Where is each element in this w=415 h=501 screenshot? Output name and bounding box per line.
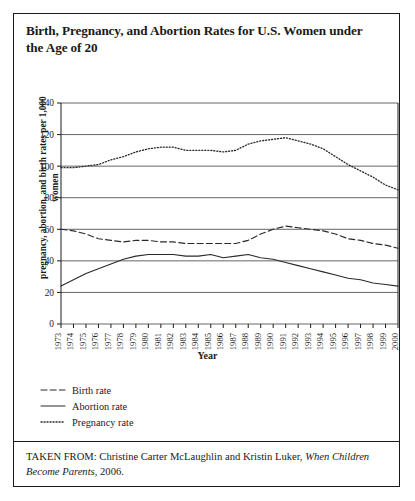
source-suffix: , 2006. (95, 466, 124, 477)
legend-item: Pregnancy rate (40, 414, 240, 430)
y-tick-label: 60 (45, 225, 55, 235)
dashed-line-swatch (40, 385, 66, 395)
x-tick-label: 1997 (353, 332, 363, 350)
x-tick-label: 1980 (140, 333, 150, 350)
x-tick-label: 1981 (153, 333, 163, 350)
source-divider (14, 441, 399, 442)
y-tick-label: 100 (40, 162, 54, 172)
x-tick-label: 1987 (228, 332, 238, 350)
x-tick-label: 1993 (303, 333, 313, 350)
legend-label: Pregnancy rate (72, 417, 133, 428)
x-tick-label: 1989 (253, 333, 263, 350)
y-tick-label: 40 (45, 256, 55, 266)
chart-plot-area: pregnancy, abortion, and birth rates per… (14, 76, 401, 376)
series-line-pregnancy-rate (61, 138, 398, 190)
x-tick-label: 2000 (390, 333, 400, 350)
x-tick-label: 1979 (128, 333, 138, 350)
y-tick-label: 20 (45, 288, 55, 298)
x-tick-label: 1976 (90, 332, 100, 350)
x-tick-label: 1984 (190, 332, 200, 350)
figure-frame: Birth, Pregnancy, and Abortion Rates for… (13, 13, 400, 487)
y-tick-label: 120 (40, 130, 54, 140)
y-tick-label: 0 (49, 319, 54, 329)
x-tick-label: 1994 (315, 332, 325, 350)
solid-line-swatch (40, 401, 66, 411)
x-tick-label: 1986 (215, 332, 225, 350)
legend-label: Birth rate (72, 385, 111, 396)
y-tick-label: 140 (40, 98, 54, 108)
x-tick-label: 1998 (365, 333, 375, 350)
legend-label: Abortion rate (72, 401, 127, 412)
x-axis-title: Year (14, 350, 401, 361)
x-tick-label: 1990 (265, 333, 275, 350)
x-tick-label: 1995 (328, 333, 338, 350)
source-note: TAKEN FROM: Christine Carter McLaughlin … (26, 450, 382, 479)
source-prefix: TAKEN FROM: Christine Carter McLaughlin … (26, 451, 305, 462)
x-tick-label: 1999 (378, 333, 388, 350)
y-tick-label: 80 (45, 193, 55, 203)
page-title: Birth, Pregnancy, and Abortion Rates for… (26, 22, 376, 56)
x-tick-label: 1996 (340, 332, 350, 350)
x-tick-label: 1992 (290, 333, 300, 350)
x-tick-label: 1985 (203, 333, 213, 350)
x-tick-label: 1978 (115, 333, 125, 350)
x-tick-label: 1977 (103, 332, 113, 350)
x-tick-label: 1983 (178, 333, 188, 350)
legend-item: Abortion rate (40, 398, 240, 414)
line-chart-svg: 0204060801001201401973197419751976197719… (14, 76, 401, 376)
x-tick-label: 1991 (278, 333, 288, 350)
dotted-line-swatch (40, 417, 66, 427)
x-tick-label: 1988 (240, 333, 250, 350)
series-line-abortion-rate (61, 255, 398, 287)
x-tick-label: 1982 (165, 333, 175, 350)
x-tick-label: 1974 (65, 332, 75, 350)
x-tick-label: 1975 (78, 333, 88, 350)
legend-item: Birth rate (40, 382, 240, 398)
chart-legend: Birth rateAbortion ratePregnancy rate (40, 382, 240, 430)
x-tick-label: 1973 (53, 333, 63, 350)
